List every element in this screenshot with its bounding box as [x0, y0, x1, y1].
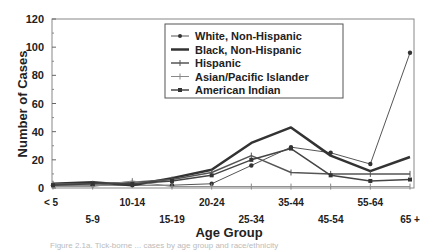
y-axis-label: Number of Cases	[15, 51, 30, 158]
legend-entry: Hispanic	[195, 57, 241, 69]
line-chart: 020406080100120< 55-910-1415-1920-2425-3…	[0, 0, 423, 250]
y-tick-label: 40	[32, 126, 44, 138]
legend: White, Non-HispanicBlack, Non-HispanicHi…	[165, 24, 343, 98]
figure-caption: Figure 2.1a. Tick-borne ... cases by age…	[50, 241, 278, 250]
y-tick-label: 0	[38, 182, 44, 194]
x-tick-label: 65 +	[400, 214, 420, 225]
y-tick-label: 80	[32, 69, 44, 81]
legend-entry: American Indian	[195, 84, 281, 96]
legend-entry: Black, Non-Hispanic	[195, 44, 301, 56]
legend-entry: White, Non-Hispanic	[195, 30, 302, 42]
y-tick-label: 20	[32, 154, 44, 166]
x-tick-label: 25-34	[239, 214, 265, 225]
y-tick-label: 120	[26, 13, 44, 25]
x-tick-label: 45-54	[318, 214, 344, 225]
x-axis-label: Age Group	[195, 225, 262, 240]
x-tick-label: 35-44	[278, 197, 304, 208]
x-tick-label: 5-9	[85, 214, 100, 225]
y-tick-label: 60	[32, 98, 44, 110]
x-tick-label: 15-19	[159, 214, 185, 225]
series-line	[53, 127, 410, 185]
x-tick-label: 55-64	[358, 197, 384, 208]
legend-entry: Asian/Pacific Islander	[195, 71, 309, 83]
x-tick-label: 10-14	[120, 197, 146, 208]
x-tick-label: < 5	[44, 197, 59, 208]
x-tick-label: 20-24	[199, 197, 225, 208]
